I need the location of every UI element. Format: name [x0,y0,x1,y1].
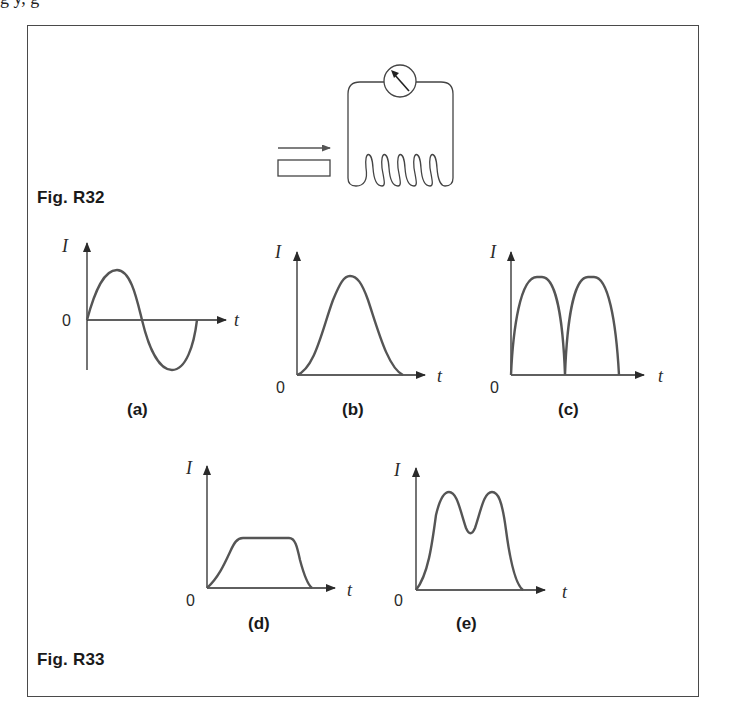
x-axis-label: t [658,366,664,386]
bar-magnet [278,160,330,176]
origin-label: 0 [186,592,195,609]
graph-b-label: (b) [342,400,364,420]
graph-c-label: (c) [558,400,579,420]
figure-r32-label: Fig. R32 [37,188,105,208]
current-curve [297,276,403,375]
y-axis-label: I [274,242,282,262]
graph-e-label: (e) [456,614,477,634]
graph-a-label: (a) [127,400,148,420]
graph-e: I t 0 [393,460,568,609]
x-axis-label: t [437,366,443,386]
origin-label: 0 [490,379,499,396]
origin-label: 0 [276,379,285,396]
y-axis-label: I [489,242,497,262]
graph-d: I t 0 [185,458,353,609]
graph-a: I t 0 [61,236,240,370]
figure-canvas: I t 0 I t 0 I t 0 I t 0 [0,0,733,723]
circuit-diagram [278,65,453,186]
figure-r33-label: Fig. R33 [37,650,105,670]
y-axis-label: I [61,236,69,256]
graph-d-label: (d) [248,614,270,634]
current-curve [416,492,523,590]
x-axis-label: t [347,580,353,600]
current-curve [207,538,312,588]
x-axis-label: t [234,310,240,330]
galvanometer-icon [384,65,416,97]
graph-c: I t 0 [489,242,664,396]
origin-label: 0 [62,312,71,329]
y-axis-label: I [393,460,401,480]
origin-label: 0 [394,592,403,609]
x-axis-label: t [562,582,568,602]
graph-b: I t 0 [274,242,443,396]
coil [356,155,445,187]
current-curve [511,277,619,375]
y-axis-label: I [185,458,193,478]
figure-page: g y, g [0,0,733,723]
